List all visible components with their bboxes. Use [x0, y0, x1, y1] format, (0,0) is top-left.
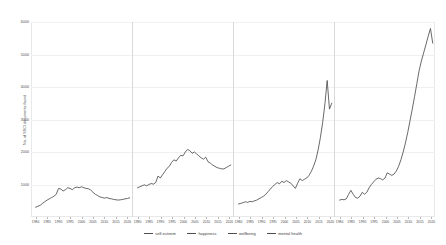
legend-item-happiness[interactable]: happiness	[187, 231, 217, 236]
x-axis-tick-label: 1995	[168, 220, 175, 224]
series-line-mental-health	[340, 29, 433, 201]
x-axis-tick-mark	[138, 217, 139, 219]
x-axis-tick-label: 1990	[55, 220, 62, 224]
x-axis-tick-mark	[431, 217, 432, 219]
x-axis-tick-label: 1985	[347, 220, 354, 224]
x-axis-tick-mark	[330, 217, 331, 219]
x-axis-tick-mark	[374, 217, 375, 219]
x-axis-tick-label: 1980	[32, 220, 39, 224]
y-axis-tick-label: 6000	[21, 20, 29, 24]
legend-item-mental-health[interactable]: mental health	[267, 231, 303, 236]
x-axis-tick-mark	[47, 217, 48, 219]
x-axis-tick-label: 2015	[112, 220, 119, 224]
x-axis-tick-mark	[161, 217, 162, 219]
x-axis-tick-label: 2000	[382, 220, 389, 224]
x-axis-tick-mark	[363, 217, 364, 219]
legend-line-icon	[187, 233, 196, 234]
y-axis-tick-label: 5000	[21, 53, 29, 57]
x-axis-tick-mark	[340, 217, 341, 219]
x-axis-tick-mark	[172, 217, 173, 219]
x-axis-tick-label: 2005	[191, 220, 198, 224]
x-axis-tick-label: 2015	[214, 220, 221, 224]
legend-item-self-esteem[interactable]: self-esteem	[144, 231, 176, 236]
x-axis-tick-mark	[59, 217, 60, 219]
x-axis-tick-mark	[82, 217, 83, 219]
x-axis-tick-label: 2000	[281, 220, 288, 224]
x-axis-tick-label: 1990	[157, 220, 164, 224]
x-axis-tick-label: 2020	[428, 220, 435, 224]
x-axis-tick-mark	[93, 217, 94, 219]
x-axis-tick-label: 2000	[180, 220, 187, 224]
series-line-wellbeing	[239, 81, 332, 205]
series-canvas	[335, 22, 435, 217]
chart-panel-happiness: 198019851990199520002005201020152020	[132, 22, 233, 217]
legend-label: self-esteem	[155, 231, 176, 236]
legend-line-icon	[228, 233, 237, 234]
legend-line-icon	[144, 233, 153, 234]
x-axis-tick-label: 1990	[258, 220, 265, 224]
chart-figure: No. of SSCI documents found 100020003000…	[0, 0, 446, 245]
x-axis-tick-label: 2010	[304, 220, 311, 224]
x-axis-tick-label: 2000	[78, 220, 85, 224]
y-axis-tick-label: 1000	[21, 183, 29, 187]
x-axis-tick-mark	[239, 217, 240, 219]
y-axis-tick-label: 3000	[21, 118, 29, 122]
x-axis-tick-mark	[285, 217, 286, 219]
x-axis-tick-mark	[229, 217, 230, 219]
x-axis-tick-mark	[36, 217, 37, 219]
x-axis-tick-label: 2005	[89, 220, 96, 224]
x-axis-tick-label: 1995	[269, 220, 276, 224]
x-axis-tick-label: 2005	[393, 220, 400, 224]
legend-item-wellbeing[interactable]: wellbeing	[228, 231, 256, 236]
chart-panel-self-esteem: 198019851990199520002005201020152020	[31, 22, 132, 217]
x-axis-tick-mark	[218, 217, 219, 219]
y-axis-tick-label: 4000	[21, 85, 29, 89]
x-axis-tick-label: 2020	[124, 220, 131, 224]
x-axis-tick-mark	[273, 217, 274, 219]
x-axis-tick-mark	[206, 217, 207, 219]
x-axis-tick-mark	[104, 217, 105, 219]
series-canvas	[31, 22, 132, 217]
x-axis-tick-mark	[70, 217, 71, 219]
x-axis-tick-mark	[127, 217, 128, 219]
x-axis-tick-mark	[420, 217, 421, 219]
legend-label: happiness	[198, 231, 216, 236]
x-axis-tick-mark	[116, 217, 117, 219]
series-line-happiness	[138, 149, 231, 187]
x-axis-tick-label: 2015	[416, 220, 423, 224]
x-axis-tick-label: 1980	[134, 220, 141, 224]
chart-plot-area: 1980198519901995200020052010201520201980…	[31, 22, 435, 217]
x-axis-tick-label: 1995	[66, 220, 73, 224]
chart-panel-wellbeing: 198019851990199520002005201020152020	[233, 22, 334, 217]
x-axis-tick-mark	[319, 217, 320, 219]
x-axis-tick-label: 2020	[327, 220, 334, 224]
x-axis-tick-label: 1995	[370, 220, 377, 224]
x-axis-tick-mark	[184, 217, 185, 219]
x-axis-tick-mark	[195, 217, 196, 219]
series-canvas	[133, 22, 233, 217]
series-line-self-esteem	[36, 187, 130, 207]
chart-legend: self-esteemhappinesswellbeingmental heal…	[0, 226, 446, 240]
x-axis-tick-mark	[149, 217, 150, 219]
x-axis-tick-mark	[351, 217, 352, 219]
x-axis-tick-label: 1980	[336, 220, 343, 224]
x-axis-tick-mark	[307, 217, 308, 219]
x-axis-tick-label: 2005	[292, 220, 299, 224]
x-axis-tick-mark	[386, 217, 387, 219]
x-axis-tick-label: 2020	[226, 220, 233, 224]
x-axis-tick-mark	[397, 217, 398, 219]
y-axis-tick-label: 2000	[21, 150, 29, 154]
x-axis-tick-label: 2010	[203, 220, 210, 224]
x-axis-tick-label: 1980	[235, 220, 242, 224]
x-axis-tick-label: 2015	[315, 220, 322, 224]
x-axis-tick-mark	[296, 217, 297, 219]
x-axis-tick-mark	[408, 217, 409, 219]
legend-line-icon	[267, 233, 276, 234]
x-axis-tick-mark	[250, 217, 251, 219]
x-axis-tick-label: 1990	[359, 220, 366, 224]
x-axis-tick-label: 1985	[145, 220, 152, 224]
x-axis-tick-mark	[262, 217, 263, 219]
x-axis-tick-label: 2010	[405, 220, 412, 224]
legend-label: mental health	[278, 231, 302, 236]
x-axis-tick-label: 2010	[101, 220, 108, 224]
